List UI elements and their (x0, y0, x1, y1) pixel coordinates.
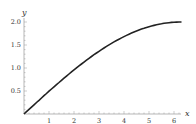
svg-text:4: 4 (122, 117, 126, 124)
svg-text:2: 2 (72, 117, 76, 124)
x-axis: 123456 (24, 111, 181, 124)
svg-text:3: 3 (97, 117, 101, 124)
curve (24, 22, 182, 114)
svg-text:1.0: 1.0 (11, 64, 21, 72)
svg-text:2.0: 2.0 (11, 18, 21, 26)
svg-text:1.5: 1.5 (11, 41, 21, 49)
svg-text:5: 5 (147, 117, 151, 124)
y-axis-label: y (21, 8, 27, 17)
x-axis-label: x (185, 109, 190, 118)
y-axis: 0.51.01.52.0 (11, 18, 27, 114)
svg-text:6: 6 (172, 117, 176, 124)
chart: 0.51.01.52.0 123456 x y (0, 0, 196, 124)
svg-text:1: 1 (47, 117, 51, 124)
svg-text:0.5: 0.5 (11, 87, 21, 95)
